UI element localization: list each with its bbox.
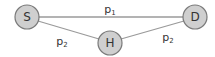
network-diagram: p1 p2 p2 S H D [0,0,215,57]
node-h-label: H [105,36,114,50]
edge-s-h [38,21,99,39]
node-d: D [183,5,207,29]
node-s: S [15,5,39,29]
node-s-label: S [23,10,31,24]
edge-h-d [121,21,184,39]
edge-label-s-h: p2 [56,35,67,49]
node-h: H [98,31,122,55]
node-d-label: D [190,10,199,24]
edge-label-h-d: p2 [162,31,173,45]
edge-label-s-d: p1 [104,3,115,17]
